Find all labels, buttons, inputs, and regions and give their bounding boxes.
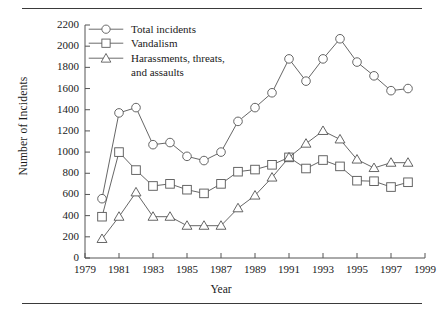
data-point-marker	[403, 158, 413, 167]
legend-marker-square-icon	[86, 36, 126, 50]
data-point-marker	[233, 203, 243, 212]
y-axis-label: Number of Incidents	[17, 56, 29, 196]
data-point-marker	[217, 148, 226, 157]
chart-legend: Total incidents Vandalism Harassments, t…	[86, 22, 225, 80]
data-point-marker	[98, 212, 107, 221]
legend-label-vandalism: Vandalism	[126, 36, 177, 50]
data-point-marker	[387, 86, 396, 95]
data-point-marker	[404, 178, 413, 187]
data-point-marker	[132, 103, 141, 112]
data-point-marker	[285, 55, 294, 64]
data-point-marker	[268, 88, 277, 97]
legend-label-harassments-cont: and assaults	[86, 65, 184, 79]
data-point-marker	[251, 103, 260, 112]
data-point-marker	[370, 72, 379, 81]
data-point-marker	[183, 185, 192, 194]
data-point-marker	[318, 126, 328, 135]
x-axis-label: Year	[0, 283, 442, 295]
data-point-marker	[336, 34, 345, 43]
y-tick-label: 1600	[33, 82, 79, 94]
data-point-marker	[115, 109, 124, 118]
data-point-marker	[200, 189, 209, 198]
y-tick-label: 200	[33, 230, 79, 242]
data-point-marker	[268, 161, 277, 170]
data-point-marker	[132, 166, 141, 175]
data-point-marker	[386, 158, 396, 167]
y-tick-label: 1000	[33, 145, 79, 157]
y-tick-label: 600	[33, 187, 79, 199]
data-point-marker	[335, 134, 345, 143]
figure: Number of Incidents Year 020040060080010…	[0, 0, 442, 319]
legend-label-total-incidents: Total incidents	[126, 22, 196, 36]
data-point-marker	[149, 182, 158, 191]
data-point-marker	[404, 84, 413, 93]
y-tick-label: 1200	[33, 124, 79, 136]
data-point-marker	[302, 164, 311, 173]
data-point-marker	[166, 138, 175, 147]
x-tick-label: 1999	[401, 263, 442, 275]
data-point-marker	[301, 139, 311, 148]
legend-marker-circle-icon	[86, 22, 126, 36]
data-point-marker	[251, 165, 260, 174]
data-point-marker	[149, 140, 158, 149]
data-point-marker	[319, 55, 328, 64]
data-point-marker	[217, 180, 226, 189]
data-point-marker	[302, 77, 311, 86]
data-point-marker	[166, 180, 175, 189]
legend-item-total-incidents: Total incidents	[86, 22, 225, 36]
data-point-marker	[199, 221, 209, 230]
legend-item-vandalism: Vandalism	[86, 36, 225, 50]
data-point-marker	[98, 194, 107, 203]
data-point-marker	[370, 177, 379, 186]
data-point-marker	[234, 117, 243, 126]
data-point-marker	[131, 187, 141, 196]
data-point-marker	[148, 212, 158, 221]
y-tick-label: 1400	[33, 103, 79, 115]
y-tick-label: 2000	[33, 39, 79, 51]
data-point-marker	[200, 156, 209, 165]
data-point-marker	[114, 212, 124, 221]
data-point-marker	[387, 183, 396, 192]
legend-item-harassments: Harassments, threats,	[86, 51, 225, 65]
data-point-marker	[97, 234, 107, 243]
y-tick-label: 2200	[33, 18, 79, 30]
data-point-marker	[165, 212, 175, 221]
data-point-marker	[115, 148, 124, 157]
data-point-marker	[182, 221, 192, 230]
legend-item-harassments-line2: and assaults	[86, 65, 225, 79]
data-point-marker	[234, 167, 243, 176]
data-point-marker	[319, 156, 328, 165]
data-point-marker	[183, 152, 192, 161]
data-point-marker	[353, 58, 362, 67]
y-tick-label: 0	[33, 251, 79, 263]
y-tick-label: 1800	[33, 60, 79, 72]
data-point-marker	[353, 176, 362, 185]
y-tick-label: 800	[33, 166, 79, 178]
legend-marker-triangle-icon	[86, 51, 126, 65]
legend-label-harassments: Harassments, threats,	[126, 51, 225, 65]
y-tick-label: 400	[33, 209, 79, 221]
data-point-marker	[336, 162, 345, 171]
